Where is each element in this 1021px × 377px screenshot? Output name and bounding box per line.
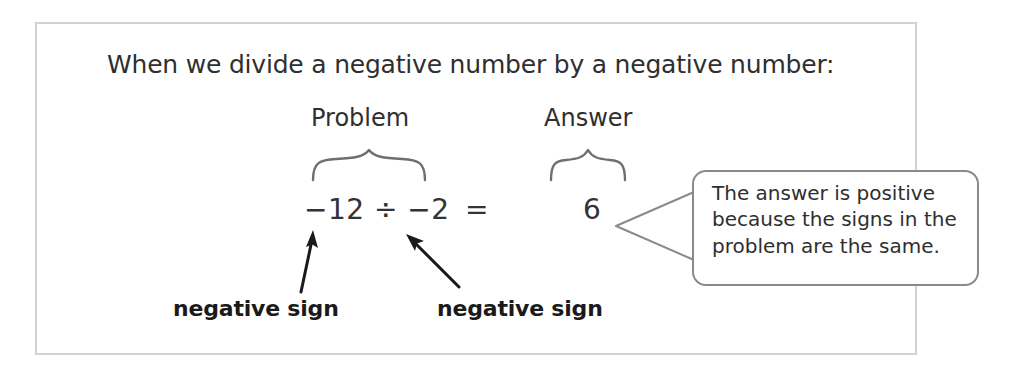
problem-expression: −12 ÷ −2 xyxy=(304,193,450,226)
left-negative-sign-arrow-icon xyxy=(292,228,332,296)
explanation-callout: The answer is positive because the signs… xyxy=(692,170,979,286)
intro-sentence: When we divide a negative number by a ne… xyxy=(107,50,834,79)
answer-curly-brace-icon xyxy=(548,148,628,182)
problem-curly-brace-icon xyxy=(310,148,428,182)
answer-column-heading: Answer xyxy=(544,104,632,132)
callout-text: The answer is positive because the signs… xyxy=(712,180,964,259)
right-negative-sign-arrow-icon xyxy=(400,230,466,292)
right-negative-sign-label: negative sign xyxy=(437,296,603,321)
left-negative-sign-label: negative sign xyxy=(173,296,339,321)
callout-pointer-tail-icon xyxy=(614,190,698,266)
problem-column-heading: Problem xyxy=(311,104,409,132)
answer-value: 6 xyxy=(583,193,601,226)
equals-sign: = xyxy=(465,193,488,226)
worksheet-figure: When we divide a negative number by a ne… xyxy=(0,0,1021,377)
